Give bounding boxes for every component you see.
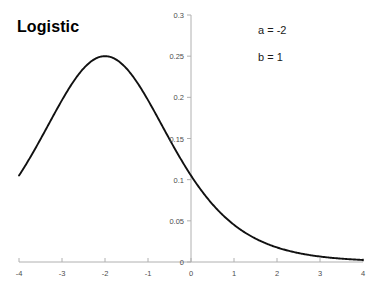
x-tick-label: 1 xyxy=(232,269,236,278)
x-axis-ticks xyxy=(19,258,363,262)
y-tick-label: 0.3 xyxy=(161,11,184,20)
y-tick-label: 0.05 xyxy=(161,216,184,225)
plot-area xyxy=(0,0,375,290)
x-tick-label: -2 xyxy=(102,269,109,278)
y-tick-label: 0.2 xyxy=(161,93,184,102)
x-tick-label: -4 xyxy=(16,269,23,278)
y-tick-label: 0.15 xyxy=(161,134,184,143)
x-tick-label: 2 xyxy=(275,269,279,278)
y-axis-ticks xyxy=(187,15,191,262)
x-tick-label: 4 xyxy=(361,269,365,278)
x-tick-label: 0 xyxy=(189,269,193,278)
y-tick-label: 0.1 xyxy=(161,175,184,184)
x-tick-label: 3 xyxy=(318,269,322,278)
y-tick-label: 0 xyxy=(161,258,184,267)
x-tick-label: -1 xyxy=(145,269,152,278)
y-tick-label: 0.25 xyxy=(161,52,184,61)
x-tick-label: -3 xyxy=(59,269,66,278)
logistic-chart: Logistic a = -2 b = 1 -4-3-2-10123400.05… xyxy=(0,0,375,290)
